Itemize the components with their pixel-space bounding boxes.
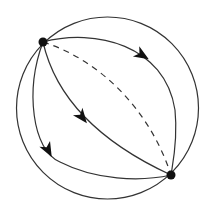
edge-middle-arc xyxy=(43,42,171,175)
arrowhead-icon xyxy=(73,108,92,127)
edge-dashed-arc xyxy=(43,42,171,175)
node-top-left xyxy=(39,38,48,47)
edge-upper-right-arc xyxy=(43,37,176,175)
edges-group xyxy=(33,37,176,178)
node-bottom-right xyxy=(167,171,176,180)
nodes-group xyxy=(39,38,176,180)
sphere-diagram xyxy=(0,0,212,202)
arrowheads-group xyxy=(39,46,152,160)
